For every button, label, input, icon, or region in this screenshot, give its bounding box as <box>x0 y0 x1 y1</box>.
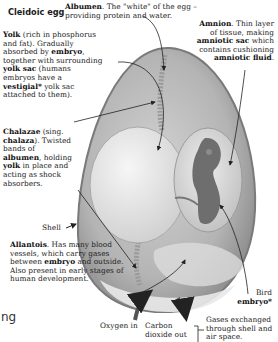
co2-out-label: Carbon dioxide out <box>145 322 193 339</box>
bird-embryo-label: Birdembryo* <box>226 289 272 306</box>
cropped-text-fragment: ng <box>1 310 16 324</box>
shell-label: Shell <box>42 224 61 233</box>
diagram-title: Cleidoic egg <box>8 7 64 17</box>
albumen-label: Albumen. The "white" of the egg – provid… <box>65 3 205 20</box>
yolk-label: Yolk (rich in phosphorus and fat). Gradu… <box>3 31 103 100</box>
allantois-label: Allantois. Has many blood vessels, which… <box>10 241 128 284</box>
oxygen-in-label: Oxygen in <box>100 322 138 331</box>
amnion-label: Amnion. Thin layer of tissue, making amn… <box>196 20 274 63</box>
gases-exchanged-label: Gases exchanged through shell and air sp… <box>206 316 278 342</box>
chalazae-label: Chalazae (sing. chalaza). Twisted bands … <box>3 128 75 188</box>
